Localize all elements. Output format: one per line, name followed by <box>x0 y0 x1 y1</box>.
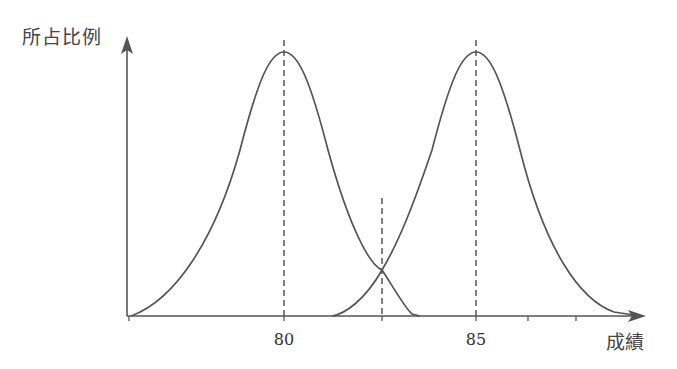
y-axis <box>121 36 133 316</box>
y-axis-label: 所占比例 <box>22 22 102 49</box>
x-axis <box>127 310 646 322</box>
x-axis-label: 成績 <box>606 327 644 354</box>
distribution-chart <box>0 0 677 369</box>
curve-mean-80 <box>131 52 420 316</box>
curve-mean-85 <box>332 52 640 316</box>
tick-label-85: 85 <box>466 330 486 349</box>
tick-label-80: 80 <box>274 330 294 349</box>
